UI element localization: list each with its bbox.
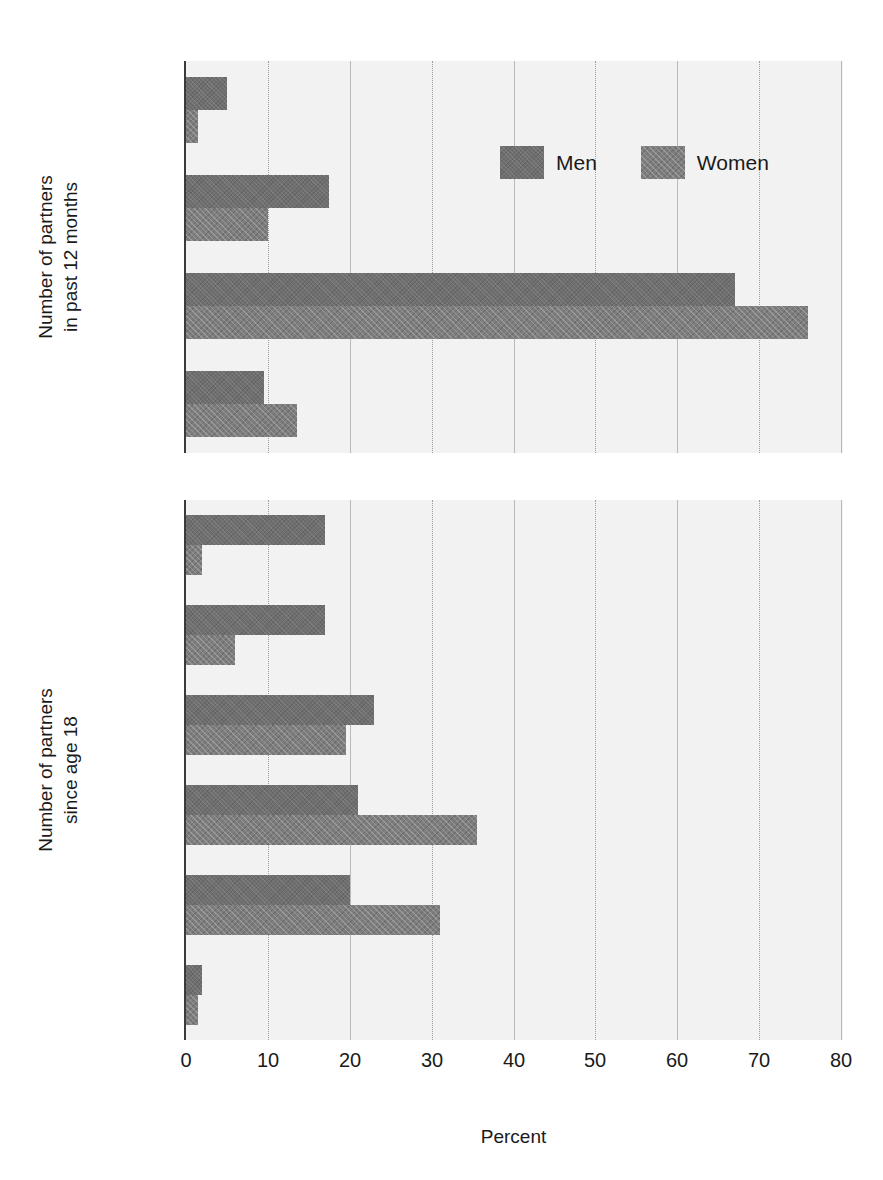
x-tick-label-60: 60	[647, 1050, 707, 1070]
bar-women-past-12-months-2	[186, 208, 268, 241]
gridline-40	[514, 61, 515, 453]
bar-men-since-age-18-1	[186, 875, 350, 905]
gridline-70	[759, 61, 761, 453]
gridline-80	[841, 500, 842, 1040]
x-tick-label-40: 40	[484, 1050, 544, 1070]
y-axis-title-top-line2: in past 12 months	[58, 61, 83, 453]
legend: Men Women	[500, 146, 769, 179]
gridline-80	[841, 61, 842, 453]
legend-item-men: Men	[500, 146, 597, 179]
x-tick-label-70: 70	[729, 1050, 789, 1070]
bar-men-since-age-18-0	[186, 965, 202, 995]
gridline-40	[514, 500, 515, 1040]
y-axis-title-top: Number of partners in past 12 months	[33, 61, 83, 453]
y-axis-title-bottom-line1: Number of partners	[33, 500, 58, 1040]
gridline-10	[268, 500, 270, 1040]
bar-women-past-12-months-3	[186, 110, 198, 143]
bar-women-since-age-18-5	[186, 545, 202, 575]
y-axis-title-top-line1: Number of partners	[33, 61, 58, 453]
x-tick-label-30: 30	[402, 1050, 462, 1070]
legend-label-men: Men	[556, 152, 597, 173]
bar-men-past-12-months-1	[186, 273, 735, 306]
y-axis-title-bottom-line2: since age 18	[58, 500, 83, 1040]
y-axis-title-bottom: Number of partners since age 18	[33, 500, 83, 1040]
bar-men-since-age-18-4	[186, 605, 325, 635]
x-tick-label-0: 0	[156, 1050, 216, 1070]
bar-men-since-age-18-3	[186, 695, 374, 725]
x-tick-label-10: 10	[238, 1050, 298, 1070]
bar-women-since-age-18-3	[186, 725, 346, 755]
gridline-30	[432, 500, 434, 1040]
x-axis-title: Percent	[414, 1126, 614, 1148]
bar-women-since-age-18-0	[186, 995, 198, 1025]
gridline-50	[595, 61, 597, 453]
bar-men-past-12-months-2	[186, 175, 329, 208]
y-axis-line-bottom	[184, 500, 186, 1040]
bar-women-past-12-months-1	[186, 306, 808, 339]
bar-women-since-age-18-4	[186, 635, 235, 665]
legend-label-women: Women	[697, 152, 769, 173]
x-tick-label-80: 80	[811, 1050, 871, 1070]
bar-men-past-12-months-0	[186, 371, 264, 404]
gridline-60	[677, 500, 678, 1040]
x-tick-label-20: 20	[320, 1050, 380, 1070]
gridline-10	[268, 61, 270, 453]
gridline-30	[432, 61, 434, 453]
legend-swatch-men-icon	[500, 146, 544, 179]
gridline-20	[350, 500, 351, 1040]
gridline-60	[677, 61, 678, 453]
legend-swatch-women-icon	[641, 146, 685, 179]
gridline-70	[759, 500, 761, 1040]
gridline-50	[595, 500, 597, 1040]
legend-item-women: Women	[641, 146, 769, 179]
bar-men-since-age-18-5	[186, 515, 325, 545]
bar-women-since-age-18-1	[186, 905, 440, 935]
gridline-20	[350, 61, 351, 453]
bar-women-since-age-18-2	[186, 815, 477, 845]
x-tick-label-50: 50	[565, 1050, 625, 1070]
bar-men-past-12-months-3	[186, 77, 227, 110]
bar-men-since-age-18-2	[186, 785, 358, 815]
bar-women-past-12-months-0	[186, 404, 297, 437]
